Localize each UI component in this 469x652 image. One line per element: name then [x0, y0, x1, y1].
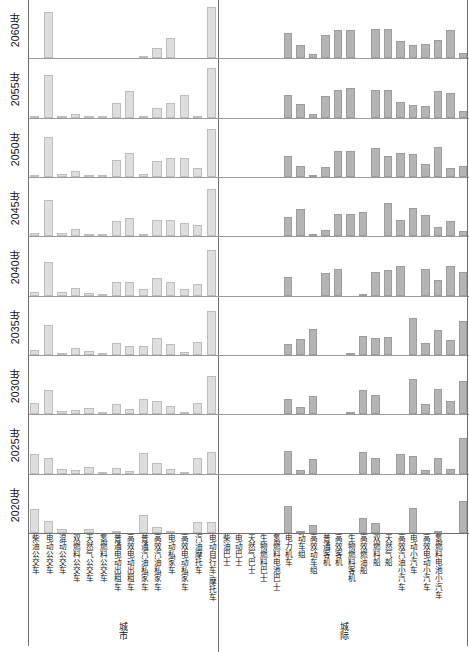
- bar[interactable]: [459, 53, 468, 58]
- bar[interactable]: [434, 280, 443, 296]
- bar[interactable]: [44, 325, 53, 355]
- bar[interactable]: [112, 221, 121, 236]
- bar[interactable]: [84, 116, 93, 118]
- bar[interactable]: [207, 522, 216, 533]
- bar[interactable]: [125, 409, 134, 414]
- bar[interactable]: [84, 175, 93, 177]
- bar[interactable]: [71, 229, 80, 237]
- bar[interactable]: [446, 469, 455, 473]
- bar[interactable]: [384, 156, 393, 177]
- bar[interactable]: [84, 408, 93, 414]
- bar[interactable]: [434, 147, 443, 177]
- bar[interactable]: [409, 45, 418, 58]
- bar[interactable]: [71, 470, 80, 473]
- bar[interactable]: [207, 189, 216, 236]
- bar[interactable]: [284, 217, 293, 236]
- bar[interactable]: [112, 468, 121, 473]
- bar[interactable]: [346, 88, 355, 118]
- bar[interactable]: [84, 467, 93, 474]
- bar[interactable]: [309, 54, 318, 58]
- bar[interactable]: [321, 35, 330, 59]
- bar[interactable]: [296, 339, 305, 355]
- bar[interactable]: [446, 93, 455, 118]
- bar[interactable]: [346, 412, 355, 414]
- bar[interactable]: [112, 282, 121, 296]
- bar[interactable]: [409, 154, 418, 177]
- bar[interactable]: [334, 269, 343, 296]
- bar[interactable]: [359, 212, 368, 237]
- bar[interactable]: [44, 458, 53, 474]
- bar[interactable]: [446, 221, 455, 236]
- bar[interactable]: [166, 103, 175, 117]
- bar[interactable]: [384, 203, 393, 236]
- bar[interactable]: [166, 469, 175, 474]
- bar[interactable]: [139, 234, 148, 237]
- bar[interactable]: [396, 266, 405, 296]
- bar[interactable]: [284, 33, 293, 59]
- bar[interactable]: [139, 346, 148, 355]
- bar[interactable]: [434, 330, 443, 355]
- bar[interactable]: [446, 168, 455, 177]
- bar[interactable]: [396, 454, 405, 473]
- bar[interactable]: [296, 470, 305, 473]
- bar[interactable]: [296, 166, 305, 177]
- bar[interactable]: [57, 353, 66, 355]
- bar[interactable]: [346, 214, 355, 237]
- bar[interactable]: [152, 108, 161, 118]
- bar[interactable]: [284, 399, 293, 414]
- bar[interactable]: [71, 348, 80, 355]
- bar[interactable]: [359, 336, 368, 355]
- bar[interactable]: [193, 403, 202, 415]
- bar[interactable]: [421, 343, 430, 355]
- bar[interactable]: [44, 200, 53, 236]
- bar[interactable]: [30, 116, 39, 118]
- bar[interactable]: [459, 501, 468, 533]
- bar[interactable]: [409, 508, 418, 533]
- bar[interactable]: [180, 352, 189, 355]
- bar[interactable]: [207, 129, 216, 177]
- bar[interactable]: [44, 12, 53, 58]
- bar[interactable]: [296, 104, 305, 118]
- bar[interactable]: [346, 353, 355, 355]
- bar[interactable]: [44, 137, 53, 177]
- bar[interactable]: [44, 75, 53, 118]
- bar[interactable]: [309, 396, 318, 414]
- bar[interactable]: [371, 90, 380, 118]
- bar[interactable]: [371, 29, 380, 58]
- bar[interactable]: [30, 292, 39, 295]
- bar[interactable]: [139, 56, 148, 58]
- bar[interactable]: [57, 116, 66, 118]
- bar[interactable]: [193, 168, 202, 177]
- bar[interactable]: [71, 288, 80, 296]
- bar[interactable]: [98, 353, 107, 355]
- bar[interactable]: [321, 273, 330, 296]
- bar[interactable]: [193, 522, 202, 533]
- bar[interactable]: [57, 411, 66, 415]
- bar[interactable]: [321, 96, 330, 117]
- bar[interactable]: [180, 223, 189, 236]
- bar[interactable]: [139, 174, 148, 177]
- bar[interactable]: [193, 284, 202, 296]
- bar[interactable]: [125, 218, 134, 236]
- bar[interactable]: [334, 151, 343, 177]
- bar[interactable]: [44, 390, 53, 415]
- bar[interactable]: [207, 311, 216, 355]
- bar[interactable]: [409, 105, 418, 118]
- bar[interactable]: [139, 515, 148, 533]
- bar[interactable]: [125, 282, 134, 296]
- bar[interactable]: [166, 220, 175, 236]
- bar[interactable]: [346, 30, 355, 58]
- bar[interactable]: [112, 103, 121, 118]
- bar[interactable]: [30, 403, 39, 415]
- bar[interactable]: [166, 282, 175, 296]
- bar[interactable]: [309, 459, 318, 474]
- bar[interactable]: [434, 458, 443, 474]
- bar[interactable]: [152, 48, 161, 59]
- bar[interactable]: [71, 114, 80, 117]
- bar[interactable]: [30, 454, 39, 473]
- bar[interactable]: [309, 114, 318, 117]
- bar[interactable]: [459, 231, 468, 236]
- bar[interactable]: [193, 116, 202, 118]
- bar[interactable]: [98, 412, 107, 414]
- bar[interactable]: [180, 158, 189, 177]
